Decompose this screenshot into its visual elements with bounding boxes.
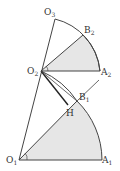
line-o2-h [41,71,68,105]
label-b2: B2 [84,25,95,36]
label-h: H [66,108,74,118]
label-a1: A1 [101,155,112,166]
sector-diagram: O3 B2 O2 A2 B1 H O1 A1 [0,0,120,171]
label-b1: B1 [79,92,89,103]
line-o2-b1 [41,71,77,101]
label-o3: O3 [44,7,55,18]
label-o1: O1 [6,155,17,166]
label-o2: O2 [27,66,38,77]
label-a2: A2 [100,67,112,78]
